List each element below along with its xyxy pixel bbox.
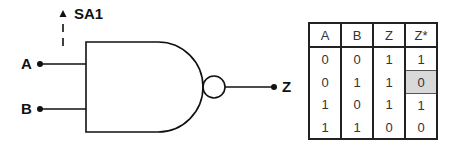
truth-table: A B Z Z* 0 0 1 1 0 1 1 0 1 0 1 <box>308 22 438 140</box>
table-header-row: A B Z Z* <box>309 23 437 47</box>
table-row: 1 1 0 0 <box>309 116 437 139</box>
header-z-faulty: Z* <box>405 23 437 47</box>
output-z-label: Z <box>282 78 291 95</box>
header-a: A <box>309 23 341 47</box>
cell: 1 <box>373 71 405 94</box>
table-row: 0 0 1 1 <box>309 47 437 71</box>
cell: 1 <box>373 94 405 117</box>
cell: 1 <box>341 71 373 94</box>
header-z: Z <box>373 23 405 47</box>
cell: 1 <box>341 116 373 139</box>
cell: 1 <box>309 94 341 117</box>
nand-gate-body <box>86 42 203 132</box>
input-a-label: A <box>21 55 32 72</box>
cell: 1 <box>405 94 437 117</box>
cell: 0 <box>341 94 373 117</box>
fault-label: SA1 <box>74 5 103 22</box>
output-z-terminal <box>271 84 277 90</box>
input-b-label: B <box>21 100 32 117</box>
highlighted-cell: 0 <box>405 71 437 94</box>
cell: 0 <box>309 47 341 71</box>
cell: 1 <box>309 116 341 139</box>
table-row: 1 0 1 1 <box>309 94 437 117</box>
cell: 0 <box>341 47 373 71</box>
nand-fault-diagram: SA1 A B Z A B Z Z* 0 0 1 1 0 1 1 0 <box>0 0 462 148</box>
table-row: 0 1 1 0 <box>309 71 437 94</box>
cell: 1 <box>405 47 437 71</box>
cell: 0 <box>309 71 341 94</box>
cell: 1 <box>373 47 405 71</box>
inverter-bubble <box>203 76 225 98</box>
cell: 0 <box>405 116 437 139</box>
header-b: B <box>341 23 373 47</box>
fault-arrow-icon <box>60 10 67 17</box>
cell: 0 <box>373 116 405 139</box>
